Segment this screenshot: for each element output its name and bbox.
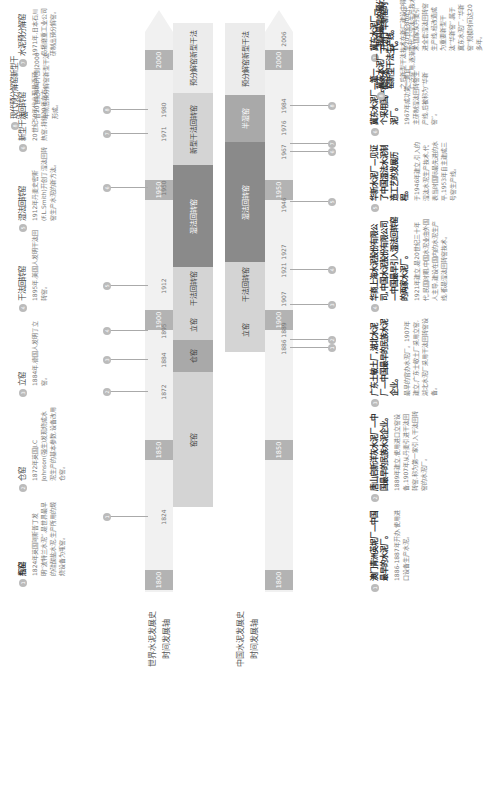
world-year-block: 1950 — [145, 180, 173, 200]
world-axis-title: 世界水泥发展史 时间发展轴 — [146, 594, 174, 684]
world-tick-line — [108, 359, 148, 360]
world-marker: 7 — [103, 130, 111, 138]
era-label: 预分解窑新型干法 — [240, 31, 250, 87]
china-year-block: 2000 — [265, 50, 293, 70]
china-tick-year: 1927 — [280, 239, 287, 265]
world-tick-year: 1950 — [160, 175, 167, 201]
world-year-block: 2000 — [145, 50, 173, 70]
china-note-3: 3广东土敏土厂,湖北水泥厂—中国最早的民族水泥企业。 最早的官办水泥厂。1907… — [370, 317, 438, 407]
note-number-icon: 3 — [371, 399, 379, 407]
note-body: 于1946年建立,引入的湿法水泥生产技术,代表当时国际最先进的水平,1953年自… — [412, 140, 457, 212]
note-number-icon: 4 — [371, 304, 379, 312]
china-marker: 8 — [328, 102, 336, 110]
note-title: 湿法回转窑 — [18, 186, 28, 221]
world-tick-line — [108, 187, 148, 188]
world-marker: 6 — [103, 184, 111, 192]
note-number-icon: 6 — [19, 144, 27, 152]
world-marker: 3 — [103, 356, 111, 364]
china-tick-line — [290, 269, 330, 270]
note-body: 1895年,美国人发明干法回转窑。 — [30, 226, 48, 312]
world-tick-year: 1872 — [160, 379, 167, 405]
world-tick-year: 1895 — [160, 318, 167, 344]
note-title: 立窑 — [18, 372, 28, 386]
note-body: 1912年丹麦史密斯(F.L.Smith)开创了湿法回转窑生产水泥的新方法。 — [30, 146, 57, 232]
world-tick-line — [108, 133, 148, 134]
china-axis-title: 中国水泥发展史 时间发展轴 — [234, 594, 262, 684]
china-note-4: 4华商上海水泥股份有限公司,中国水泥股份有限公司—中国最早引入湿法回转窑的两家水… — [370, 216, 448, 312]
world-axis-arrow-icon — [145, 10, 173, 32]
note-body: 1921年建立,是20世纪三十年代,民国时期,中国水泥业由外国人主导,建设在国内… — [412, 216, 448, 312]
note-title: 广东土敏土厂,湖北水泥厂—中国最早的民族水泥企业。 — [370, 317, 400, 396]
note-body: 1824年英国阿斯普丁发明“波特兰水泥”,是世界最早的硅酸盐水泥,生产所用的煅烧… — [30, 501, 66, 587]
world-note-4: 4干法回转窑 1895年,美国人发明干法回转窑。 — [18, 226, 48, 312]
note-number-icon: 1 — [19, 579, 27, 587]
world-note-2: 2仓窑 1872年英国J.C Johnson(强生)发现烧成水泥生产的基本参数,… — [18, 406, 66, 492]
china-tick-year: 1889 — [280, 317, 287, 343]
china-year-block: 1850 — [265, 440, 293, 460]
china-note-8: 8冀东水泥厂—我国最早的预分解窑新型干法生产线。 之后新型干法技术在新厂建设中得… — [376, 0, 416, 100]
china-year-block: 1800 — [265, 570, 293, 590]
note-title: 唐山启新洋灰水泥厂—中国最早的民族水泥企业。 — [370, 410, 390, 491]
world-era-new-dry-rotary: 新型干法回转窑 — [173, 93, 213, 165]
world-era-shaft-kiln: 立窑 — [173, 310, 213, 340]
world-tick-year: 1912 — [160, 273, 167, 299]
note-title: 干法回转窑 — [18, 266, 28, 301]
china-axis-title-line2: 时间发展轴 — [248, 594, 262, 684]
china-tick-line — [290, 347, 330, 348]
world-marker: 4 — [103, 327, 111, 335]
era-label: 干法回转窑 — [240, 267, 250, 302]
era-label: 新型干法回转窑 — [188, 105, 198, 154]
note-title: 华新水泥厂—见证了中国湿法水泥制造工艺的发展历程。 — [370, 140, 410, 201]
note-number-icon: 8 — [11, 122, 19, 130]
world-note-1: 1瓶窑 1824年英国阿斯普丁发明“波特兰水泥”,是世界最早的硅酸盐水泥,生产所… — [18, 501, 66, 587]
china-tick-year: 2006 — [280, 26, 287, 52]
world-year-block: 1850 — [145, 440, 173, 460]
world-tick-line — [108, 285, 148, 286]
note-body: 自20世纪80年代到2000年前后预分解窑新型干法形成。 — [32, 50, 59, 130]
china-tick-year: 1967 — [280, 139, 287, 165]
era-label: 仓窑 — [188, 349, 198, 363]
note-number-icon: 5 — [371, 204, 379, 212]
china-tick-year: 1984 — [280, 93, 287, 119]
note-number-icon: 2 — [371, 494, 379, 502]
world-tick-line — [108, 516, 148, 517]
china-marker: 1 — [328, 344, 336, 352]
china-marker: 6 — [328, 148, 336, 156]
note-body: 1884年,德国人发明了立窑。 — [30, 311, 48, 397]
era-label: 半湿窑 — [240, 108, 250, 129]
china-tick-year: 1946 — [280, 192, 287, 218]
note-title: 仓窑 — [18, 467, 28, 481]
china-axis-title-line1: 中国水泥发展史 — [234, 594, 248, 684]
china-era-semi-wet: 半湿窑 — [225, 95, 265, 142]
world-marker: 1 — [103, 513, 111, 521]
note-body: 1889年建立,使用进口立窑设备,1907年从丹麦引进干法回转窑,称为第一家引入… — [392, 410, 428, 502]
world-tick-year: 1980 — [160, 97, 167, 123]
world-note-8: 8现代预分解窑新型干法 自20世纪80年代到2000年前后预分解窑新型干法形成。 — [10, 50, 59, 130]
note-number-icon: 1 — [371, 584, 379, 592]
world-marker: 2 — [103, 388, 111, 396]
timeline-infographic: 世界水泥发展史 时间发展轴 1800 1850 1900 1950 2000 窑… — [0, 0, 497, 812]
world-tick-year: 1824 — [160, 504, 167, 530]
china-marker: 5 — [328, 198, 336, 206]
world-year-block: 1800 — [145, 570, 173, 590]
world-axis-title-line2: 时间发展轴 — [160, 594, 174, 684]
world-era-wet-rotary: 湿法回转窑 — [173, 165, 213, 267]
world-era-precalciner: 预分解窑新型干法 — [173, 23, 213, 93]
china-note-5: 5华新水泥厂—见证了中国湿法水泥制造工艺的发展历程。 于1946年建立,引入的湿… — [370, 140, 457, 212]
china-axis-arrow-icon — [265, 10, 293, 32]
china-tick-line — [290, 105, 330, 106]
world-axis-title-line1: 世界水泥发展史 — [146, 594, 160, 684]
world-note-5: 5湿法回转窑 1912年丹麦史密斯(F.L.Smith)开创了湿法回转窑生产水泥… — [18, 146, 57, 232]
china-marker: 3 — [328, 301, 336, 309]
china-era-shaft-kiln: 立窑 — [225, 307, 265, 352]
china-year-block: 1950 — [265, 180, 293, 200]
world-tick-line — [108, 391, 148, 392]
era-label: 立窑 — [240, 323, 250, 337]
note-body: 1886-1887年开办,使用进口设备生产水泥。 — [392, 508, 410, 592]
china-year-block: 1900 — [265, 310, 293, 330]
world-tick-year: 1884 — [160, 347, 167, 373]
note-number-icon: 2 — [19, 484, 27, 492]
era-label: 湿法回转窑 — [188, 199, 198, 234]
era-label: 立窑 — [188, 318, 198, 332]
world-era-bottle-kiln: 窑窑 — [173, 372, 213, 507]
